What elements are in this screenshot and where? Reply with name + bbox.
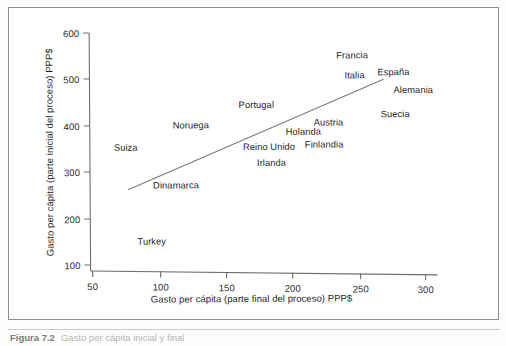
y-tick-label-400: 400	[52, 121, 80, 132]
figure-caption-number: Figura 7.2	[10, 332, 55, 343]
point-label-portugal: Portugal	[239, 100, 274, 110]
trend-line	[127, 79, 384, 190]
y-axis	[83, 33, 90, 271]
scan-skew-wrapper: 600 500 400 300 200 100 50 100 150 200 2…	[0, 0, 506, 346]
point-label-noruega: Noruega	[173, 120, 209, 130]
figure-caption-text: Gasto per cápita inicial y final	[61, 332, 185, 343]
point-label-finlandia: Finlandia	[305, 139, 344, 149]
y-tick-label-200: 200	[52, 214, 80, 225]
point-label-dinamarca: Dinamarca	[153, 180, 199, 190]
x-axis	[91, 269, 438, 282]
plot-area: 600 500 400 300 200 100 50 100 150 200 2…	[0, 0, 506, 346]
y-tick-label-600: 600	[51, 28, 79, 39]
y-tick-label-300: 300	[52, 167, 80, 178]
point-label-holanda: Holanda	[286, 127, 321, 137]
point-label-alemania: Alemania	[393, 85, 433, 95]
x-tick-label-150: 150	[213, 282, 241, 293]
figure-caption: Figura 7.2Gasto per cápita inicial y fin…	[10, 332, 506, 343]
y-axis-line	[89, 33, 90, 271]
point-label-italia: Italia	[344, 70, 364, 80]
figure-root: 600 500 400 300 200 100 50 100 150 200 2…	[0, 0, 506, 346]
x-axis-line	[91, 269, 438, 277]
point-label-reino-unido: Reino Unido	[243, 142, 295, 152]
y-axis-title: Gasto per cápita (parte inicial del proc…	[43, 48, 55, 256]
point-label-irlanda: Irlanda	[257, 158, 286, 168]
x-tick-label-100: 100	[147, 281, 175, 292]
point-label-francia: Francia	[336, 50, 368, 60]
x-tick-label-300: 300	[412, 284, 440, 295]
caption-rule	[8, 329, 500, 330]
x-axis-title: Gasto per cápita (parte final del proces…	[151, 292, 353, 304]
x-tick-label-50: 50	[80, 281, 106, 292]
y-tick-label-500: 500	[51, 74, 79, 85]
point-label-suiza: Suiza	[114, 143, 138, 153]
point-label-austria: Austria	[314, 117, 344, 127]
point-label-espana: España	[377, 67, 409, 77]
y-tick-label-100: 100	[53, 260, 81, 271]
point-label-turkey: Turkey	[137, 237, 166, 247]
point-label-suecia: Suecia	[381, 109, 410, 119]
